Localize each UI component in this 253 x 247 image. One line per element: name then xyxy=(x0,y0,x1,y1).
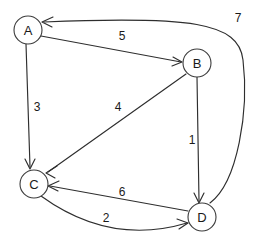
edge-d-a[interactable]: 7 xyxy=(42,11,245,203)
node-b[interactable]: B xyxy=(183,49,211,77)
edge-d-c[interactable]: 6 xyxy=(48,181,188,211)
node-d-label: D xyxy=(197,210,206,225)
edge-weight-b-c: 4 xyxy=(115,100,122,114)
node-c-label: C xyxy=(29,177,38,192)
graph-svg-surface: 5 3 4 1 6 xyxy=(0,0,253,247)
edge-c-d[interactable]: 2 xyxy=(41,196,188,230)
edge-weight-b-d: 1 xyxy=(189,133,196,147)
edge-weight-a-b: 5 xyxy=(119,29,126,43)
edge-b-c[interactable]: 4 xyxy=(46,74,186,178)
edge-b-d[interactable]: 1 xyxy=(189,77,204,203)
edge-b-c-line xyxy=(48,74,186,172)
edge-a-c[interactable]: 3 xyxy=(25,44,41,169)
edges-layer: 5 3 4 1 6 xyxy=(25,11,245,230)
graph-diagram: 5 3 4 1 6 xyxy=(0,0,253,247)
node-b-label: B xyxy=(193,56,202,71)
edge-d-a-line xyxy=(44,20,245,203)
edge-weight-c-d: 2 xyxy=(103,211,110,225)
node-d[interactable]: D xyxy=(188,203,216,231)
node-a-label: A xyxy=(24,23,33,38)
edge-c-d-line xyxy=(41,196,187,230)
edge-weight-a-c: 3 xyxy=(34,100,41,114)
node-c[interactable]: C xyxy=(20,170,48,198)
node-a[interactable]: A xyxy=(14,16,42,44)
edge-b-d-line xyxy=(197,77,199,201)
edge-a-b-line xyxy=(41,36,181,62)
edge-weight-d-a: 7 xyxy=(235,11,242,25)
edge-weight-d-c: 6 xyxy=(119,185,126,199)
edge-b-c-arrowhead-icon xyxy=(46,166,57,178)
edge-a-c-line xyxy=(26,44,30,167)
edge-a-b[interactable]: 5 xyxy=(41,29,182,66)
